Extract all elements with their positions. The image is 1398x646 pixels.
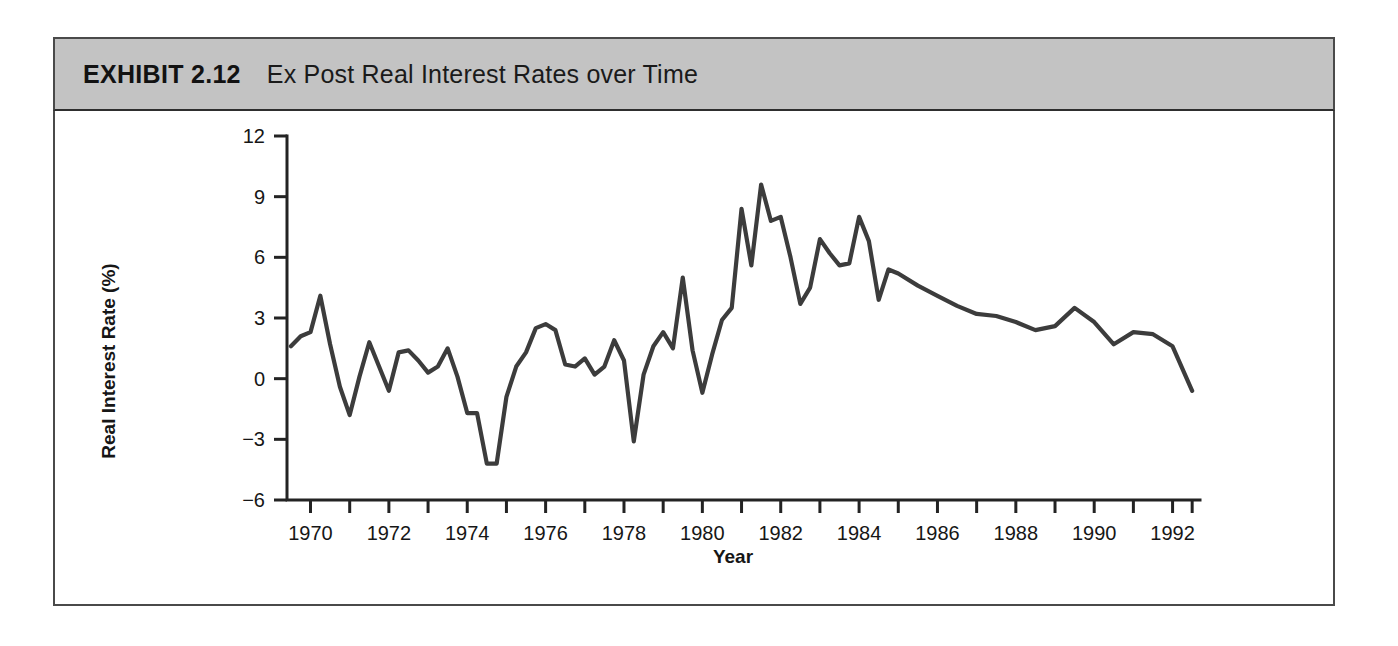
data-series-line bbox=[291, 185, 1192, 464]
chart-axes: 129630−3−6 19701972197419761978198019821… bbox=[242, 125, 1200, 544]
y-axis-tick-label: −3 bbox=[242, 428, 265, 450]
y-axis-ticks bbox=[274, 136, 287, 500]
x-axis-tick-label: 1992 bbox=[1150, 522, 1195, 544]
x-axis-tick-labels: 1970197219741976197819801982198419861988… bbox=[288, 522, 1195, 544]
x-axis-tick-label: 1976 bbox=[523, 522, 568, 544]
y-axis-tick-label: 9 bbox=[254, 186, 265, 208]
x-axis-tick-label: 1982 bbox=[758, 522, 803, 544]
x-axis-tick-label: 1986 bbox=[915, 522, 960, 544]
exhibit-title: Ex Post Real Interest Rates over Time bbox=[267, 60, 698, 89]
x-axis-tick-label: 1980 bbox=[680, 522, 725, 544]
x-axis-title: Year bbox=[713, 546, 754, 567]
y-axis-tick-label: 3 bbox=[254, 307, 265, 329]
y-axis-tick-label: −6 bbox=[242, 489, 265, 511]
chart-plot-area: 129630−3−6 19701972197419761978198019821… bbox=[53, 111, 1335, 606]
x-axis-tick-label: 1978 bbox=[602, 522, 647, 544]
x-axis-tick-label: 1990 bbox=[1072, 522, 1117, 544]
x-axis-tick-label: 1970 bbox=[288, 522, 333, 544]
line-chart-svg: 129630−3−6 19701972197419761978198019821… bbox=[53, 111, 1335, 606]
exhibit-number-label: EXHIBIT 2.12 bbox=[83, 60, 241, 89]
x-axis-tick-label: 1984 bbox=[837, 522, 882, 544]
exhibit-figure: EXHIBIT 2.12 Ex Post Real Interest Rates… bbox=[0, 0, 1398, 646]
x-axis-tick-label: 1972 bbox=[367, 522, 412, 544]
exhibit-header-band: EXHIBIT 2.12 Ex Post Real Interest Rates… bbox=[53, 37, 1335, 111]
exhibit-header-text: EXHIBIT 2.12 Ex Post Real Interest Rates… bbox=[55, 60, 698, 89]
y-axis-title: Real Interest Rate (%) bbox=[98, 263, 119, 458]
x-axis-tick-label: 1988 bbox=[994, 522, 1039, 544]
y-axis-tick-label: 0 bbox=[254, 368, 265, 390]
x-axis-tick-label: 1974 bbox=[445, 522, 490, 544]
y-axis-tick-label: 6 bbox=[254, 246, 265, 268]
y-axis-tick-labels: 129630−3−6 bbox=[242, 125, 265, 511]
x-axis-ticks bbox=[311, 500, 1193, 513]
y-axis-tick-label: 12 bbox=[243, 125, 265, 147]
